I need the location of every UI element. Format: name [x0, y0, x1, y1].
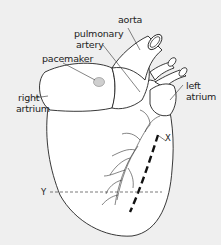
- pacemaker-device: [94, 78, 105, 87]
- label-left-atrium-2: atrium: [186, 92, 216, 102]
- label-x-marker: X: [165, 133, 171, 143]
- label-right-atrium-2: artrium: [16, 104, 50, 114]
- label-right-atrium-1: right: [18, 93, 39, 103]
- label-y-marker: Y: [41, 187, 46, 197]
- heart-diagram: aorta pulmonary artery pacemaker right a…: [0, 0, 221, 245]
- label-left-atrium-1: left: [186, 81, 201, 91]
- label-pulmonary-artery-1: pulmonary: [74, 29, 123, 39]
- label-aorta: aorta: [118, 15, 142, 25]
- label-pacemaker: pacemaker: [42, 54, 93, 64]
- label-pulmonary-artery-2: artery: [76, 40, 104, 50]
- left-atrium-shape: [150, 84, 176, 116]
